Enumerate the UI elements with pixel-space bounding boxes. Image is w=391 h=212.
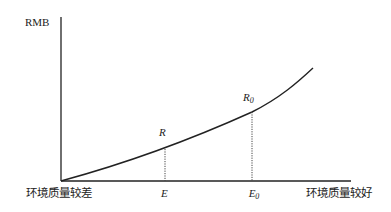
point-label-R0: R0 [242,91,254,105]
x-axis-right-label: 环境质量较好 [306,186,373,200]
x-axis-left-label: 环境质量较差 [26,186,92,200]
point-label-R: R [158,126,166,138]
x-tick-E0: E0 [248,187,260,201]
diagram-canvas: RMB R R0 环境质量较差 E E0 环境质量较好 [0,0,391,212]
x-tick-E: E [160,187,168,199]
diagram-svg: RMB R R0 环境质量较差 E E0 环境质量较好 [0,0,391,212]
cost-curve [61,68,313,181]
y-axis-label: RMB [25,16,49,28]
